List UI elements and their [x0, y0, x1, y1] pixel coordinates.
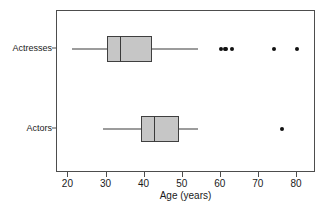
category-tick — [52, 48, 57, 49]
plot-frame — [56, 10, 315, 172]
x-axis-tick-label: 80 — [290, 178, 301, 189]
x-axis-tick-label: 30 — [100, 178, 111, 189]
x-axis-tick — [220, 172, 221, 177]
iqr-box — [141, 116, 179, 142]
x-axis-tick — [67, 172, 68, 177]
clipped-chart-title — [56, 0, 315, 2]
x-axis-tick — [296, 172, 297, 177]
median-line — [154, 116, 155, 142]
whisker-high — [179, 129, 198, 130]
category-label-actresses: Actresses — [12, 43, 52, 53]
box-whisker-actors — [57, 11, 316, 173]
x-axis-tick — [182, 172, 183, 177]
x-axis-tick — [144, 172, 145, 177]
x-axis-tick — [106, 172, 107, 177]
boxplot-chart: ActressesActors 20304050607080 Age (year… — [0, 0, 329, 211]
x-axis-tick-label: 70 — [252, 178, 263, 189]
plot-area — [57, 11, 314, 171]
x-axis-tick — [258, 172, 259, 177]
x-axis-tick-label: 40 — [138, 178, 149, 189]
x-axis-tick-label: 60 — [214, 178, 225, 189]
x-axis-tick-label: 50 — [176, 178, 187, 189]
x-axis-title: Age (years) — [56, 190, 315, 201]
x-axis-tick-label: 20 — [62, 178, 73, 189]
outlier-point — [280, 127, 284, 131]
category-tick — [52, 128, 57, 129]
x-axis: 20304050607080 — [56, 172, 315, 192]
whisker-low — [103, 129, 141, 130]
category-label-actors: Actors — [26, 123, 52, 133]
